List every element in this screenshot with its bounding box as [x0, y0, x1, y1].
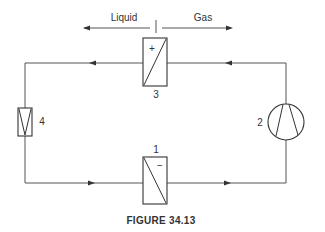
component-1-label: 1 [153, 144, 159, 155]
component-3-label: 3 [153, 89, 159, 100]
refrigeration-cycle-diagram: Liquid Gas + 3 − 1 [0, 0, 325, 232]
component-4-label: 4 [39, 116, 45, 127]
figure-caption: FIGURE 34.13 [126, 215, 195, 226]
component-2-compressor: 2 [257, 104, 304, 140]
component-1-evaporator: − 1 [143, 144, 167, 204]
minus-sign: − [157, 160, 163, 171]
liquid-arrowhead-icon [83, 26, 90, 31]
phase-indicator: Liquid Gas [83, 12, 233, 33]
plus-sign: + [149, 43, 155, 54]
gas-label: Gas [194, 12, 212, 23]
component-2-label: 2 [257, 117, 263, 128]
gas-arrowhead-icon [226, 26, 233, 31]
flow-arrow-icon [224, 181, 231, 186]
component-4-expansion-valve: 4 [18, 108, 45, 136]
flow-arrow-icon [225, 61, 232, 66]
flow-arrow-icon [89, 61, 96, 66]
liquid-label: Liquid [111, 12, 138, 23]
flow-arrow-icon [88, 181, 95, 186]
component-3-condenser: + 3 [143, 38, 167, 100]
